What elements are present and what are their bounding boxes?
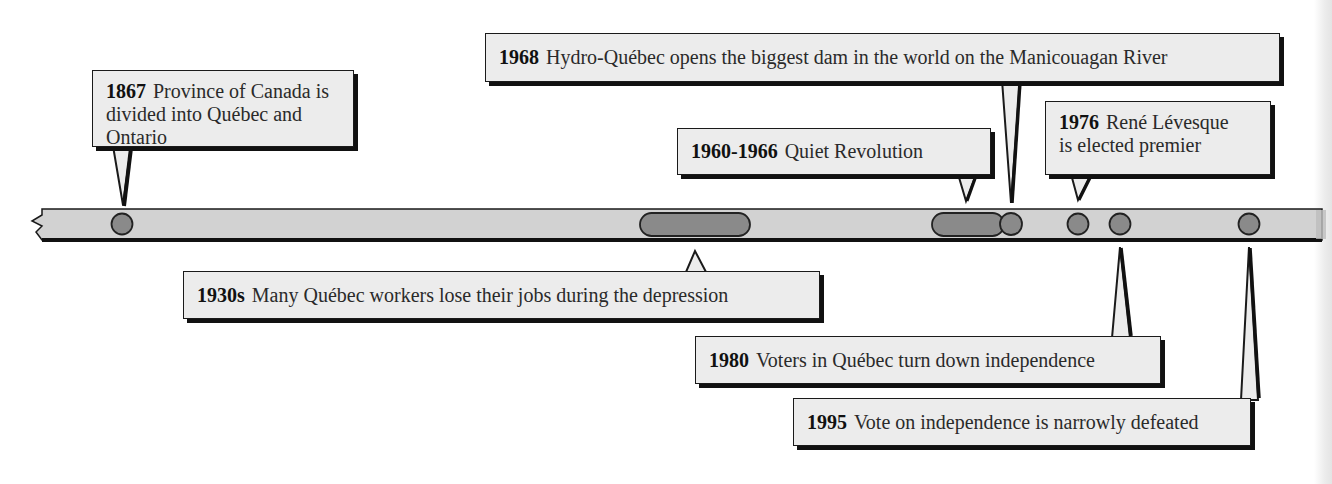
callout-1995-text: 1995Vote on independence is narrowly def… — [807, 411, 1199, 434]
callout-1960-1966-text: 1960-1966Quiet Revolution — [691, 140, 923, 163]
event-text-line2: divided into Québec and Ontario — [106, 103, 302, 148]
event-text-line1: René Lévesque — [1106, 111, 1229, 133]
callout-1976-text: 1976René Lévesque is elected premier — [1059, 111, 1229, 157]
pointer-1930s — [686, 251, 706, 272]
event-year: 1995 — [807, 411, 847, 433]
callout-1867-text: 1867Province of Canada is divided into Q… — [106, 80, 353, 149]
event-year: 1980 — [709, 349, 749, 371]
event-text: Hydro-Québec opens the biggest dam in th… — [546, 46, 1168, 68]
marker-dot-1867[interactable] — [112, 214, 133, 235]
callout-1976: 1976René Lévesque is elected premier — [1045, 101, 1271, 175]
marker-span-1960-1966[interactable] — [932, 213, 1004, 236]
event-text: Many Québec workers lose their jobs duri… — [252, 284, 729, 306]
callout-1968-text: 1968Hydro-Québec opens the biggest dam i… — [499, 46, 1168, 69]
event-text-line2: is elected premier — [1059, 134, 1201, 156]
marker-dot-1976[interactable] — [1068, 214, 1089, 235]
event-text: Vote on independence is narrowly defeate… — [854, 411, 1199, 433]
marker-span-1930s[interactable] — [640, 213, 750, 236]
event-year: 1960-1966 — [691, 140, 778, 162]
callout-1980-text: 1980Voters in Québec turn down independe… — [709, 349, 1095, 372]
event-text: Voters in Québec turn down independence — [756, 349, 1095, 371]
callout-1960-1966: 1960-1966Quiet Revolution — [677, 128, 991, 175]
callout-1930s: 1930sMany Québec workers lose their jobs… — [183, 271, 820, 319]
callout-1930s-text: 1930sMany Québec workers lose their jobs… — [197, 284, 728, 307]
callout-1867: 1867Province of Canada is divided into Q… — [92, 70, 354, 147]
event-year: 1867 — [106, 80, 146, 102]
event-year: 1968 — [499, 46, 539, 68]
event-year: 1976 — [1059, 111, 1099, 133]
marker-dot-1995[interactable] — [1239, 214, 1260, 235]
event-year: 1930s — [197, 284, 245, 306]
marker-dot-1980[interactable] — [1110, 214, 1131, 235]
callout-1968: 1968Hydro-Québec opens the biggest dam i… — [485, 33, 1280, 82]
event-text-line1: Province of Canada is — [153, 80, 329, 102]
callout-1995: 1995Vote on independence is narrowly def… — [793, 398, 1251, 446]
marker-dot-1968[interactable] — [1000, 213, 1022, 235]
event-text: Quiet Revolution — [785, 140, 923, 162]
callout-1980: 1980Voters in Québec turn down independe… — [695, 336, 1161, 384]
